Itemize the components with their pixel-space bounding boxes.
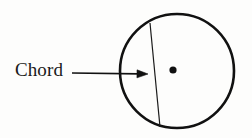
center-point — [169, 66, 176, 73]
chord-pointer-arrow-head — [137, 70, 148, 78]
chord-segment — [150, 23, 160, 127]
chord-diagram-figure: Chord — [0, 0, 252, 138]
chord-pointer-arrow-shaft — [72, 73, 139, 74]
chord-label: Chord — [15, 59, 63, 81]
